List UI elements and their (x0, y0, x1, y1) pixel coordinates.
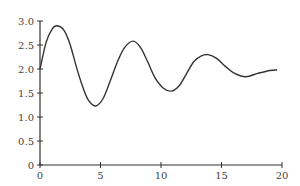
data-line (40, 26, 277, 106)
x-tick-label: 0 (37, 170, 43, 181)
y-tick-label: 1.5 (18, 88, 34, 99)
y-tick-label: 1.0 (18, 112, 34, 123)
x-tick-label: 10 (155, 170, 168, 181)
y-tick-label: 2.5 (18, 40, 34, 51)
x-tick-label: 20 (276, 170, 289, 181)
line-chart: 00.51.01.52.02.53.005101520 (0, 0, 300, 186)
x-tick-label: 15 (215, 170, 228, 181)
axes: 00.51.01.52.02.53.005101520 (18, 16, 288, 182)
x-tick-label: 5 (97, 170, 103, 181)
y-tick-label: 0 (28, 160, 34, 171)
y-tick-label: 0.5 (18, 136, 34, 147)
y-tick-label: 3.0 (18, 16, 34, 27)
y-tick-label: 2.0 (18, 64, 34, 75)
